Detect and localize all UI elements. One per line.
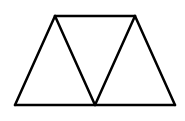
trapezoid-triangles-diagram xyxy=(0,0,185,121)
left-edge xyxy=(15,16,55,105)
diagram-segments xyxy=(15,16,175,105)
right-edge xyxy=(135,16,175,105)
inner-right-diagonal xyxy=(95,16,135,105)
inner-left-diagonal xyxy=(55,16,95,105)
